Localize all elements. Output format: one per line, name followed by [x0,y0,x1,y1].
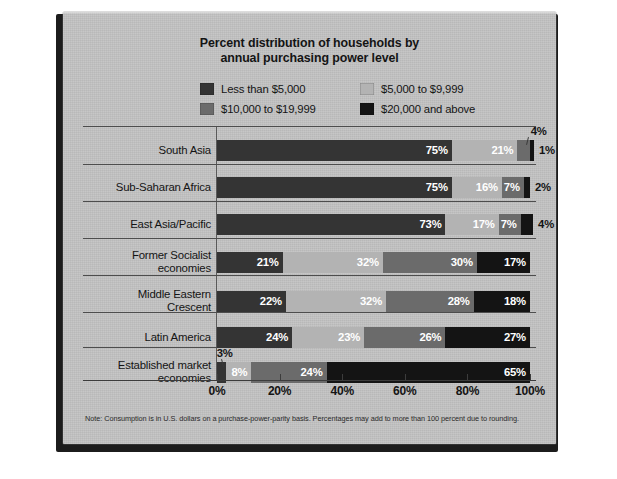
legend-swatch-icon [200,83,214,95]
category-label-line: Established market [83,359,211,372]
bar-segment[interactable]: 32% [286,291,386,312]
category-label: Sub-Saharan Africa [83,181,216,194]
card-bevel [63,12,556,14]
bar-segment[interactable]: 18% [474,291,530,312]
stacked-bar[interactable]: 75%21%1% [217,140,534,161]
legend-item[interactable]: Less than $5,000 [200,83,360,95]
legend-item[interactable]: $20,000 and above [360,103,500,115]
bar-segment[interactable]: 7% [499,214,521,235]
chart-row: Sub-Saharan Africa75%16%7%2% [83,173,536,201]
legend-item-label: $10,000 to $19,999 [221,103,316,115]
bar-segment-value: 32% [360,295,382,307]
category-label: Former Socialisteconomies [83,249,216,275]
bar-segment-value: 1% [539,144,555,156]
bar-segment[interactable]: 27% [445,327,530,348]
bar-segment[interactable]: 2% [524,177,530,198]
bar-segment[interactable]: 22% [217,291,286,312]
category-label-line: Former Socialist [83,249,211,262]
bar-segment-value: 32% [357,256,379,268]
bar-segment[interactable]: 32% [283,252,383,273]
bar-segment[interactable]: 26% [364,327,445,348]
bar-segment-value: 23% [338,331,360,343]
stacked-bar[interactable]: 75%16%7%2% [217,177,530,198]
category-label: Middle EasternCrescent [83,288,216,314]
chart-row: Former Socialisteconomies21%32%30%17% [83,245,536,279]
category-label-line: Latin America [83,331,211,344]
chart-note: Note: Consumption is in U.S. dollars on … [85,414,533,424]
row-separator-line [83,238,536,239]
category-label-line: Sub-Saharan Africa [83,181,211,194]
category-label: Latin America [83,331,216,344]
legend-item[interactable]: $10,000 to $19,999 [200,103,360,115]
category-label-line: Crescent [83,301,211,314]
bar-segment-value: 7% [501,218,517,230]
bar-segment[interactable] [517,140,530,161]
x-axis-tick-label: 80% [456,384,479,398]
chart-legend: Less than $5,000$5,000 to $9,999$10,000 … [200,79,500,119]
x-axis-tick-label: 100% [515,384,545,398]
chart-row: Latin America24%23%26%27% [83,323,536,351]
bar-segment[interactable]: 24% [217,327,292,348]
category-label: East Asia/Pacific [83,218,216,231]
bar-segment-value: 73% [419,218,441,230]
bar-segment-value: 2% [535,181,551,193]
bar-segment[interactable]: 16% [452,177,502,198]
bar-segment-value: 16% [476,181,498,193]
legend-item-label: $5,000 to $9,999 [381,83,463,95]
chart-row: Middle EasternCrescent22%32%28%18% [83,284,536,318]
legend-swatch-icon [360,83,374,95]
bar-segment-value: 18% [504,295,526,307]
bar-segment-value: 17% [504,256,526,268]
x-axis-tick-label: 40% [330,384,353,398]
chart-row: East Asia/Pacific73%17%7%4% [83,210,536,238]
chart-screenshot: Percent distribution of households by an… [0,0,617,479]
chart-row: South Asia75%21%1% [83,136,536,164]
callout-label: 3% [217,347,233,359]
legend-swatch-icon [360,103,374,115]
chart-title-line-2: annual purchasing power level [83,51,536,66]
bar-segment-value: 22% [260,295,282,307]
bar-segment[interactable]: 7% [502,177,524,198]
legend-item-label: $20,000 and above [381,103,475,115]
bar-segment[interactable]: 17% [477,252,530,273]
bar-segment[interactable]: 23% [292,327,364,348]
bar-segment[interactable]: 73% [217,214,445,235]
stacked-bar[interactable]: 73%17%7%4% [217,214,533,235]
category-label-line: Middle Eastern [83,288,211,301]
stacked-bar[interactable]: 22%32%28%18% [217,291,530,312]
bar-segment[interactable]: 28% [386,291,474,312]
legend-item-label: Less than $5,000 [221,83,305,95]
bar-segment-value: 26% [419,331,441,343]
row-separator-line [83,126,536,127]
bar-segment[interactable]: 17% [445,214,498,235]
category-label: South Asia [83,144,216,157]
bar-segment[interactable]: 1% [530,140,534,161]
callout-label: 4% [531,125,547,137]
bar-segment[interactable]: 30% [383,252,477,273]
chart-title-line-1: Percent distribution of households by [83,36,536,51]
bar-segment[interactable]: 21% [452,140,518,161]
bar-segment[interactable]: 75% [217,140,452,161]
bar-segment-value: 30% [451,256,473,268]
bar-segment-value: 75% [426,144,448,156]
bar-segment-value: 21% [491,144,513,156]
category-label-line: East Asia/Pacific [83,218,211,231]
legend-item[interactable]: $5,000 to $9,999 [360,83,500,95]
bar-segment-value: 17% [473,218,495,230]
category-label-line: economies [83,262,211,275]
row-separator-line [83,201,536,202]
bar-segment-value: 7% [504,181,520,193]
x-axis-line [83,380,536,381]
bar-segment-value: 24% [266,331,288,343]
chart-title: Percent distribution of households by an… [83,36,536,65]
bar-segment[interactable]: 21% [217,252,283,273]
stacked-bar[interactable]: 24%23%26%27% [217,327,530,348]
bar-segment-value: 27% [504,331,526,343]
bar-segment[interactable]: 4% [521,214,534,235]
bar-segment[interactable]: 75% [217,177,452,198]
stacked-bar[interactable]: 21%32%30%17% [217,252,530,273]
x-axis-tick-label: 60% [393,384,416,398]
row-separator-line [83,164,536,165]
category-label-line: South Asia [83,144,211,157]
legend-swatch-icon [200,103,214,115]
